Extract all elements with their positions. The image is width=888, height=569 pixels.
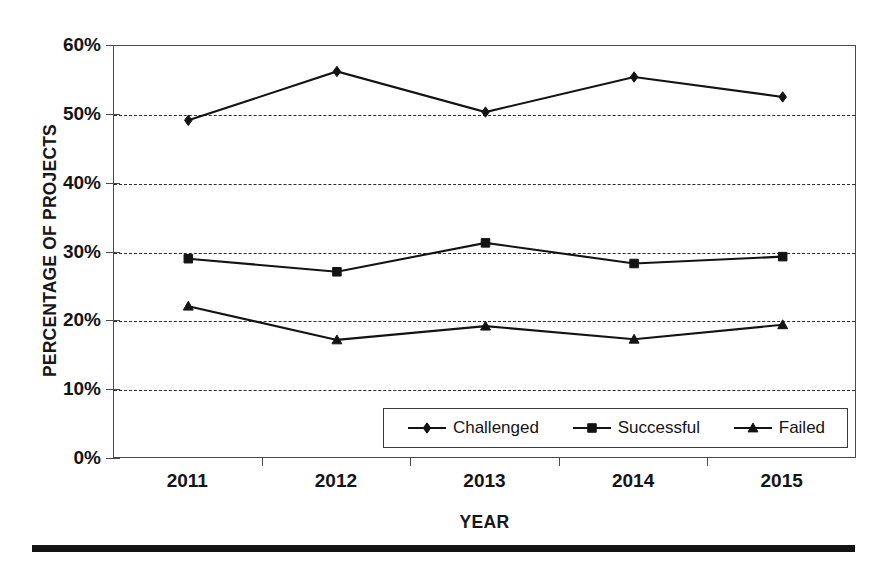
horizontal-rule xyxy=(32,545,855,552)
x-tick-label-2011: 2011 xyxy=(127,470,247,492)
data-point-successful-2015 xyxy=(778,252,787,261)
y-tick-label-60: 60% xyxy=(31,34,101,56)
legend-label: Failed xyxy=(779,418,825,438)
chart-legend: ChallengedSuccessfulFailed xyxy=(383,408,848,448)
legend-entry-challenged[interactable]: Challenged xyxy=(406,418,539,438)
legend-marker-triangle-icon xyxy=(732,420,774,436)
data-point-challenged-2013 xyxy=(482,107,489,117)
y-tick-mark-40 xyxy=(106,183,120,184)
x-tick-mark-2 xyxy=(410,458,411,466)
x-tick-label-2013: 2013 xyxy=(425,470,545,492)
y-tick-label-40: 40% xyxy=(31,172,101,194)
data-point-challenged-2012 xyxy=(333,66,340,76)
y-tick-label-50: 50% xyxy=(31,103,101,125)
y-tick-label-0: 0% xyxy=(31,447,101,469)
x-tick-mark-3 xyxy=(559,458,560,466)
y-tick-mark-0 xyxy=(106,458,120,459)
y-tick-label-10: 10% xyxy=(31,378,101,400)
line-chart-figure: PERCENTAGE OF PROJECTS 0%10%20%30%40%50%… xyxy=(0,0,888,569)
legend-entry-failed[interactable]: Failed xyxy=(732,418,825,438)
x-tick-mark-1 xyxy=(262,458,263,466)
data-point-challenged-2015 xyxy=(779,92,786,102)
y-tick-label-20: 20% xyxy=(31,309,101,331)
data-point-challenged-2011 xyxy=(185,115,192,125)
data-point-successful-2013 xyxy=(481,239,490,248)
data-point-failed-2011 xyxy=(183,301,193,310)
legend-label: Challenged xyxy=(453,418,539,438)
y-tick-mark-10 xyxy=(106,389,120,390)
y-tick-mark-60 xyxy=(106,45,120,46)
y-tick-mark-20 xyxy=(106,320,120,321)
series-canvas xyxy=(114,46,857,459)
x-axis-title: YEAR xyxy=(113,512,856,533)
y-tick-mark-50 xyxy=(106,114,120,115)
plot-inner xyxy=(114,46,855,457)
x-tick-label-2012: 2012 xyxy=(276,470,396,492)
legend-label: Successful xyxy=(618,418,700,438)
x-tick-label-2014: 2014 xyxy=(573,470,693,492)
y-tick-label-30: 30% xyxy=(31,241,101,263)
data-point-successful-2011 xyxy=(184,254,193,263)
legend-marker-diamond-icon xyxy=(406,420,448,436)
y-tick-mark-30 xyxy=(106,252,120,253)
legend-marker-square-icon xyxy=(571,420,613,436)
data-point-challenged-2014 xyxy=(630,72,637,82)
x-tick-mark-4 xyxy=(707,458,708,466)
data-point-successful-2014 xyxy=(630,259,639,268)
data-point-successful-2012 xyxy=(333,268,342,277)
legend-entry-successful[interactable]: Successful xyxy=(571,418,700,438)
plot-area xyxy=(113,45,856,458)
x-tick-label-2015: 2015 xyxy=(722,470,842,492)
